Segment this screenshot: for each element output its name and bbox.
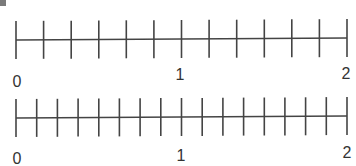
label-zero: 0 xyxy=(13,73,22,90)
label-two: 2 xyxy=(343,144,352,161)
label-one: 1 xyxy=(176,66,185,83)
label-zero: 0 xyxy=(13,150,22,166)
number-line-sixths: 0 1 2 xyxy=(13,19,351,90)
number-line-eighths: 0 1 2 xyxy=(13,97,352,166)
label-two: 2 xyxy=(342,65,351,82)
label-one: 1 xyxy=(177,147,186,164)
number-lines-figure: 0 1 2 0 1 2 xyxy=(0,0,356,166)
